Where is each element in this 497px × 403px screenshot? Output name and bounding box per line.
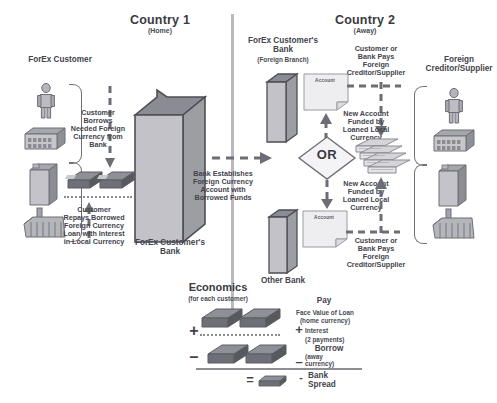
economics-pay-label: Pay bbox=[288, 296, 360, 305]
caption-pays-creditor-top: Customer or Bank Pays Foreign Creditor/S… bbox=[336, 45, 416, 77]
or-label: OR bbox=[297, 148, 357, 163]
economics-subtitle: (for each customer) bbox=[155, 295, 281, 302]
country2-subtitle: (Away) bbox=[305, 27, 425, 35]
economics-equals-sign: = bbox=[242, 373, 258, 388]
caption-customer-borrows: Customer Borrows Needed Foreign Currency… bbox=[58, 109, 138, 149]
forex-bank-label: ForEx Customer's Bank bbox=[118, 238, 222, 256]
country1-subtitle: (Home) bbox=[100, 27, 220, 35]
creditor-group-brace bbox=[414, 86, 427, 166]
account-label-top: Account bbox=[303, 78, 347, 83]
country2-title: Country 2 bbox=[305, 13, 425, 27]
economics-interest-sub: (2 payments) bbox=[305, 336, 361, 343]
country1-title: Country 1 bbox=[100, 13, 220, 27]
money-trail-pay bbox=[200, 334, 280, 336]
person-icon-creditor bbox=[443, 88, 465, 124]
money-stack-icon-borrow bbox=[206, 339, 288, 369]
caption-new-account-bottom: New Account Funded by Loaned Local Curre… bbox=[330, 180, 402, 212]
person-icon bbox=[35, 83, 57, 119]
forex-customer-label: ForEx Customer bbox=[5, 55, 115, 64]
economics-row-minus: – bbox=[186, 348, 202, 366]
caption-pays-creditor-bottom: Customer or Bank Pays Foreign Creditor/S… bbox=[336, 237, 416, 269]
money-stack-icon-spread bbox=[258, 374, 288, 388]
economics-borrow-sub: (away currency) bbox=[305, 353, 361, 367]
document-stack-icon bbox=[354, 138, 412, 176]
money-stack-icon-pay bbox=[200, 303, 282, 333]
caption-bank-establishes: Bank Establishes Foreign Currency Accoun… bbox=[178, 170, 268, 202]
bank-building-icon-foreign bbox=[263, 70, 301, 148]
economics-borrow-label: Borrow bbox=[294, 344, 364, 353]
factory-icon-creditor bbox=[428, 209, 478, 243]
other-bank-building-icon bbox=[265, 206, 301, 278]
bank-building-icon bbox=[127, 85, 213, 250]
arrow-bank-establishes bbox=[212, 152, 274, 164]
money-trail bbox=[64, 196, 132, 198]
economics-divider-rule bbox=[196, 368, 362, 370]
foreign-creditor-label: Foreign Creditor/Supplier bbox=[422, 55, 496, 73]
economics-result-dash: - bbox=[294, 372, 308, 383]
tower-building-icon-creditor bbox=[436, 161, 470, 209]
diagram-canvas: Country 1 (Home) Country 2 (Away) ForEx … bbox=[0, 0, 497, 403]
forex-bank-foreign-label: ForEx Customer's Bank bbox=[238, 36, 328, 54]
creditor-group-brace-lower bbox=[414, 164, 427, 244]
arrow-creditor-up-bottom bbox=[375, 175, 387, 233]
money-stack-icon bbox=[66, 166, 136, 194]
low-building-icon-creditor bbox=[430, 127, 476, 154]
account-label-bottom: Account bbox=[302, 215, 346, 220]
economics-pay-line1: Face Value of Loan bbox=[280, 309, 370, 316]
forex-bank-foreign-sublabel: (Foreign Branch) bbox=[238, 56, 328, 63]
economics-interest-label: Interest bbox=[305, 327, 361, 334]
economics-title: Economics bbox=[155, 281, 281, 293]
economics-result-label: Bank Spread bbox=[308, 371, 362, 389]
tower-building-icon bbox=[27, 160, 61, 208]
